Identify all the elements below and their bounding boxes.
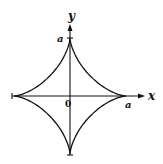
y-axis bbox=[67, 24, 73, 155]
astroid-diagram: y x 0 a a bbox=[0, 0, 163, 164]
top-intercept-label: a bbox=[57, 33, 63, 44]
right-intercept-label: a bbox=[125, 99, 131, 110]
x-axis-arrow-icon bbox=[138, 94, 145, 99]
origin-label: 0 bbox=[65, 99, 71, 109]
x-axis-label: x bbox=[147, 89, 156, 103]
y-axis-arrow-icon bbox=[68, 24, 73, 31]
y-axis-label: y bbox=[67, 9, 76, 23]
